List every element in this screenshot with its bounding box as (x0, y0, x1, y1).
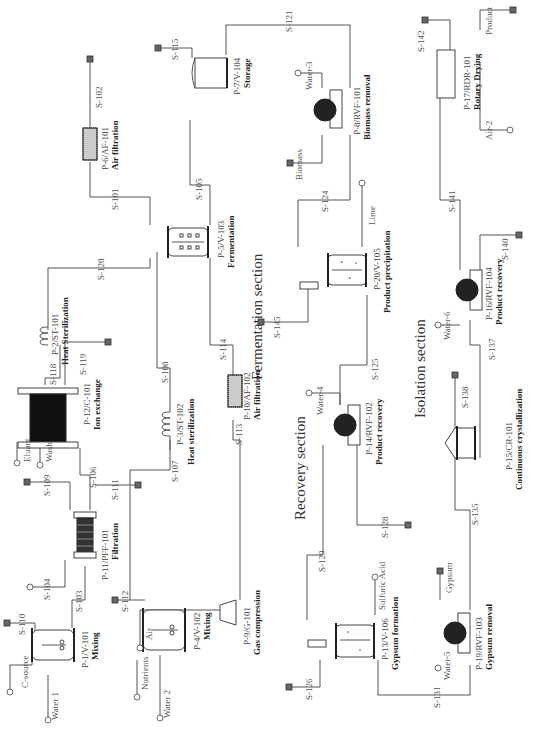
stream-output-biomass: Biomass (294, 148, 304, 180)
equipment-p19-rvf103-rotary-filter[interactable] (444, 613, 470, 653)
stream-label-s107: S-107 (170, 460, 180, 482)
equipment-id-p4-v102: P-4/V-102 (192, 613, 202, 650)
stream-input-water-3: Water-3 (304, 61, 314, 90)
stream-label-s141: S-141 (447, 190, 457, 212)
stream-label-s125: S-125 (370, 358, 380, 380)
stream-input-water-1: Water 1 (50, 692, 60, 720)
stream-label-s111: S-111 (110, 479, 120, 500)
stream-label-s109: S-109 (42, 474, 52, 496)
equipment-id-p6-af101: P-6/AF-101 (100, 127, 110, 170)
equipment-name-p11-pff101: Filtration (110, 523, 120, 560)
stream-label-s121: S-121 (284, 10, 294, 32)
equipment-id-p19-rvf103: P-19/RVF-103 (474, 617, 484, 670)
stream-label-s110: S-110 (17, 613, 27, 635)
stream-label-s120: S-120 (96, 258, 106, 280)
equipment-p20-v105-precipitation-tank[interactable] (300, 253, 366, 289)
equipment-name-p12-c101: Ion exchange (92, 379, 102, 430)
section-title-recovery: Recovery section (292, 416, 308, 520)
equipment-id-p3-st102: P-3/ST-102 (175, 404, 185, 445)
stream-label-s104: S-104 (42, 578, 52, 600)
stream-input-water-4: Water-4 (315, 386, 325, 415)
stream-label-s137: S-137 (487, 338, 497, 360)
process-flow-diagram: Fermentation section Recovery section Is… (0, 0, 535, 730)
stream-label-s106: S-106 (88, 466, 98, 488)
equipment-p17-rdr101-rotary-dryer[interactable] (437, 50, 455, 98)
equipment-name-p15-cr101: Continuous crystallization (514, 389, 524, 490)
equipment-name-p17-rdr101: Rotary Drying (472, 53, 482, 110)
equipment-p9-g101-compressor[interactable] (220, 600, 236, 625)
equipment-p1-v101-mixing-tank[interactable] (32, 628, 74, 662)
stream-label-s129: S-129 (317, 550, 327, 572)
stream-label-s131: S-131 (432, 686, 442, 708)
equipment-name-p1-v101: Mixing (90, 632, 100, 660)
equipment-id-p16-rvf104: P-16/RVF-104 (484, 267, 494, 320)
stream-label-s115: S-115 (170, 38, 180, 60)
equipment-name-p3-st102: Heat sterilization (186, 399, 196, 465)
stream-label-s135: S-135 (470, 503, 480, 525)
equipment-p16-rvf104-rotary-filter[interactable] (456, 270, 482, 310)
stream-input-air: Air (144, 628, 154, 640)
equipment-name-p13-v106: Gypsum formation (390, 597, 400, 670)
stream-label-s101: S-101 (110, 188, 120, 210)
equipment-name-p20-v105: Product precipitation (382, 231, 392, 313)
equipment-p13-v106-reactor-tank[interactable] (308, 623, 374, 659)
equipment-id-p11-pff101: P-11/PFF-101 (100, 529, 110, 580)
stream-input-air-2: Air-2 (484, 121, 494, 140)
equipment-p7-v104-storage-tank[interactable] (192, 58, 227, 88)
equipment-p2-st101-heat-sterilizer[interactable] (40, 327, 48, 345)
stream-label-s118: S-118 (48, 363, 58, 385)
equipment-id-p14-rvf102: P-14/RVF-102 (364, 402, 374, 455)
equipment-id-p15-cr101: P-15/CR-101 (504, 422, 514, 470)
stream-label-s108: S-108 (160, 361, 170, 383)
equipment-id-p20-v105: P-20/V-105 (372, 248, 382, 290)
equipment-name-p9-g101: Gas compression (252, 590, 262, 655)
equipment-p14-rvf102-rotary-filter[interactable] (334, 405, 360, 445)
equipment-name-p2-st101: Heat Sterilization (60, 297, 70, 365)
stream-input-lime: Lime (367, 206, 377, 225)
stream-input-c-source: C-source (20, 656, 30, 689)
equipment-name-p19-rvf103: Gypsum removal (484, 603, 494, 670)
equipment-p8-rvf101-rotary-filter[interactable] (314, 90, 342, 128)
equipment-p5-v103-fermenter[interactable] (168, 226, 208, 258)
section-title-isolation: Isolation section (412, 319, 428, 418)
stream-label-s138: S-138 (460, 386, 470, 408)
equipment-name-p4-v102: Mixing (202, 612, 212, 640)
equipment-id-p1-v101: P-1/V-101 (80, 631, 90, 668)
stream-label-s119: S-119 (78, 353, 88, 375)
equipment-name-p6-af101: Air filtration (110, 120, 120, 170)
equipment-p6-af101-air-filter[interactable] (83, 128, 97, 160)
stream-label-s113: S-113 (234, 423, 244, 445)
stream-input-sulfuric-acid: Sulfuric Acid (377, 561, 387, 610)
equipment-p11-pff101-filter[interactable] (74, 512, 96, 558)
stream-input-eluant: Eluant (22, 438, 32, 462)
stream-input-water-5: Water-5 (442, 651, 452, 680)
stream-label-s102: S-102 (94, 86, 104, 108)
equipment-p3-st102-heat-sterilizer[interactable] (162, 410, 170, 450)
equipment-name-p16-rvf104: Product recovery (494, 258, 504, 325)
stream-output-gypsum: Gypsum (444, 562, 454, 593)
stream-input-water-2: Water 2 (162, 690, 172, 718)
stream-input-water-6: Water-6 (442, 311, 452, 340)
equipment-id-p12-c101: P-12/C-101 (82, 383, 92, 425)
stream-label-s142: S-142 (416, 30, 426, 52)
stream-label-s105: S-105 (194, 178, 204, 200)
equipment-p10-af102-air-filter[interactable] (228, 375, 242, 407)
section-title-fermentation: Fermentation section (249, 253, 265, 380)
equipment-id-p2-st101: P-2/ST-101 (50, 314, 60, 355)
stream-label-s103: S-103 (74, 590, 84, 612)
equipment-id-p13-v106: P-13/V-106 (380, 618, 390, 660)
equipment-name-p8-rvf101: Biomass removal (362, 74, 372, 140)
equipment-id-p8-rvf101: P-8/RVF-101 (352, 87, 362, 135)
equipment-id-p7-v104: P-7/V-104 (232, 57, 242, 95)
equipment-id-p9-g101: P-9/G-101 (242, 607, 252, 645)
equipment-name-p14-rvf102: Product recovery (374, 398, 384, 465)
equipment-name-p5-v103: Fermentation (226, 216, 236, 268)
equipment-id-p17-rdr101: P-17/RDR-101 (462, 55, 472, 110)
stream-label-s112: S-112 (120, 591, 130, 612)
stream-label-s126: S-126 (304, 678, 314, 700)
stream-label-s128: S-128 (380, 516, 390, 538)
equipment-id-p10-af102: P-10/AF-102 (242, 372, 252, 420)
equipment-id-p5-v103: P-5/V-103 (216, 220, 226, 258)
stream-label-s140: S-140 (500, 238, 510, 260)
equipment-p15-cr101-crystallizer[interactable] (445, 426, 475, 460)
